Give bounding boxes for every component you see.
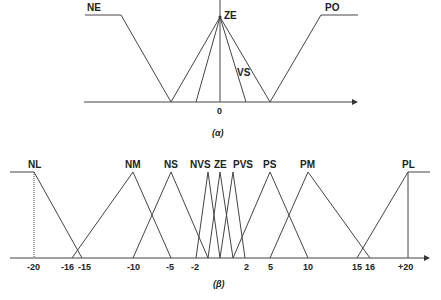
tick-minus16: -16 <box>61 262 74 272</box>
tick-minus15: -15 <box>78 262 91 272</box>
caption-a: (α) <box>212 128 224 138</box>
label-PL: PL <box>402 159 415 170</box>
label-PM: PM <box>300 159 315 170</box>
tick-minus2: -2 <box>191 262 199 272</box>
mf-PS <box>233 172 308 258</box>
axis-arrow-icon <box>352 99 358 105</box>
label-NE: NE <box>87 2 101 13</box>
diagram-b: NL NM NS NVS ZE PVS PS PM PL -20 -16 -15… <box>10 159 430 289</box>
label-PVS: PVS <box>233 159 253 170</box>
label-NS: NS <box>164 159 178 170</box>
fuzzy-membership-diagrams: NE ZE VS PO 0 (α) NL NM NS NVS ZE <box>0 0 441 300</box>
mf-NE <box>85 15 171 102</box>
mf-PM <box>270 172 370 258</box>
mf-NVS <box>196 172 220 258</box>
tick-2: 2 <box>244 262 249 272</box>
label-VS: VS <box>237 67 251 78</box>
tick-plus20: +20 <box>398 262 413 272</box>
mf-ZE-narrow <box>196 17 246 102</box>
label-NVS: NVS <box>190 159 211 170</box>
label-ZE: ZE <box>214 159 227 170</box>
label-PS: PS <box>263 159 277 170</box>
label-NM: NM <box>125 159 141 170</box>
tick-0: 0 <box>217 106 222 116</box>
diagram-a: NE ZE VS PO 0 (α) <box>84 0 358 138</box>
label-ZE: ZE <box>224 10 237 21</box>
tick-16: 16 <box>365 262 375 272</box>
tick-5: 5 <box>268 262 273 272</box>
axis-arrow-icon <box>424 255 430 261</box>
tick-minus20: -20 <box>27 262 40 272</box>
mf-PL <box>357 172 430 258</box>
peak-dot <box>219 16 222 19</box>
tick-minus5: -5 <box>166 262 174 272</box>
tick-15: 15 <box>352 262 362 272</box>
mf-NS <box>133 172 208 258</box>
mf-NM <box>72 172 171 258</box>
mf-NL <box>10 172 82 258</box>
tick-minus10: -10 <box>127 262 140 272</box>
caption-b: (β) <box>213 279 225 289</box>
mf-PO <box>270 15 358 102</box>
label-NL: NL <box>28 159 41 170</box>
label-PO: PO <box>325 2 340 13</box>
tick-10: 10 <box>303 262 313 272</box>
mf-PVS <box>220 172 245 258</box>
mf-ZE <box>208 172 233 258</box>
